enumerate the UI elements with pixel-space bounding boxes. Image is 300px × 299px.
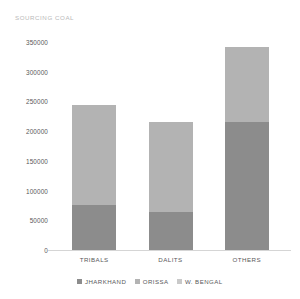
y-axis-tick-label: 300000 xyxy=(26,68,48,75)
y-axis-tick-label: 100000 xyxy=(26,187,48,194)
legend-swatch-icon xyxy=(177,279,182,284)
plot-area xyxy=(56,42,285,250)
y-axis-tick-label: 50000 xyxy=(30,217,48,224)
legend-label: ORISSA xyxy=(143,278,169,285)
y-axis-tick-label: 250000 xyxy=(26,98,48,105)
legend-item[interactable]: ORISSA xyxy=(135,278,168,285)
y-axis-tick-label: 200000 xyxy=(26,128,48,135)
chart-container: SOURCING COAL 35000030000025000020000015… xyxy=(0,0,300,299)
bar-segment[interactable] xyxy=(149,212,193,250)
bar-group[interactable] xyxy=(72,105,116,250)
y-axis: 3500003000002500002000001500001000005000… xyxy=(0,42,52,250)
legend-label: JHARKHAND xyxy=(85,278,126,285)
bar-segment[interactable] xyxy=(225,122,269,250)
x-axis-tick-label: TRIBALS xyxy=(80,256,109,263)
legend-swatch-icon xyxy=(135,279,140,284)
legend-item[interactable]: JHARKHAND xyxy=(77,278,126,285)
x-axis: TRIBALSDALITSOTHERS xyxy=(56,256,285,270)
legend-label: W. BENGAL xyxy=(185,278,223,285)
bar-segment[interactable] xyxy=(72,105,116,205)
bar-group[interactable] xyxy=(225,47,269,250)
y-axis-tick-label: 350000 xyxy=(26,39,48,46)
x-axis-tick-label: DALITS xyxy=(158,256,182,263)
y-axis-tick-label: 150000 xyxy=(26,157,48,164)
legend-item[interactable]: W. BENGAL xyxy=(177,278,222,285)
bar-segment[interactable] xyxy=(149,122,193,212)
x-axis-tick-label: OTHERS xyxy=(233,256,261,263)
bar-segment[interactable] xyxy=(225,47,269,122)
bar-group[interactable] xyxy=(149,122,193,250)
chart-title: SOURCING COAL xyxy=(15,14,74,21)
legend-swatch-icon xyxy=(77,279,82,284)
bar-segment[interactable] xyxy=(72,205,116,250)
x-axis-line xyxy=(48,250,291,251)
chart-legend: JHARKHANDORISSAW. BENGAL xyxy=(0,278,300,285)
